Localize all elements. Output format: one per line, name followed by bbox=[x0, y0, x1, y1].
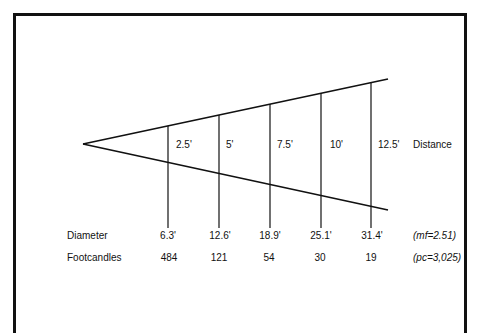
footcandles-value: 484 bbox=[161, 252, 178, 264]
distance-label: 10' bbox=[330, 139, 343, 151]
footcandles-value: 19 bbox=[365, 252, 376, 264]
distance-heading: Distance bbox=[413, 139, 452, 151]
diameter-value: 12.6' bbox=[209, 230, 230, 242]
footcandles-value: 121 bbox=[211, 252, 228, 264]
diameter-value: 25.1' bbox=[310, 230, 331, 242]
footcandles-label: Footcandles bbox=[67, 252, 121, 264]
diameter-value: 18.9' bbox=[259, 230, 280, 242]
distance-label: 5' bbox=[226, 139, 233, 151]
multiplying-factor-note: (mf=2.51) bbox=[413, 230, 456, 242]
distance-markers bbox=[168, 83, 371, 228]
beam-lower-edge bbox=[83, 144, 388, 210]
diameter-value: 6.3' bbox=[160, 230, 176, 242]
distance-label: 7.5' bbox=[277, 139, 293, 151]
peak-candela-note: (pc=3,025) bbox=[413, 252, 461, 264]
distance-label: 2.5' bbox=[176, 139, 192, 151]
diameter-label: Diameter bbox=[67, 230, 108, 242]
footcandles-value: 54 bbox=[263, 252, 274, 264]
footcandles-value: 30 bbox=[314, 252, 325, 264]
beam-upper-edge bbox=[83, 79, 388, 144]
diameter-value: 31.4' bbox=[361, 230, 382, 242]
distance-label: 12.5' bbox=[378, 139, 399, 151]
